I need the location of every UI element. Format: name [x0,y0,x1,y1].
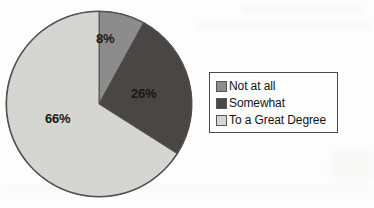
slice-label-not-at-all: 8% [96,31,114,46]
legend-label: Somewhat [229,97,285,110]
legend-swatch-icon [216,81,227,92]
slice-label-somewhat: 26% [131,86,156,101]
slice-label-to-a-great-degree: 66% [45,111,70,126]
scan-artifact [243,6,363,13]
pie-chart-figure: 8% 26% 66% Not at all Somewhat To a Grea… [0,0,374,208]
chart-legend: Not at all Somewhat To a Great Degree [209,72,338,133]
legend-item-somewhat: Somewhat [216,95,332,112]
legend-label: To a Great Degree [229,114,326,127]
legend-swatch-icon [216,98,227,109]
legend-item-to-a-great-degree: To a Great Degree [216,112,332,129]
scan-artifact [196,24,371,29]
legend-swatch-icon [216,115,227,126]
legend-item-not-at-all: Not at all [216,78,332,95]
legend-label: Not at all [229,80,275,93]
scan-artifact [330,150,374,180]
